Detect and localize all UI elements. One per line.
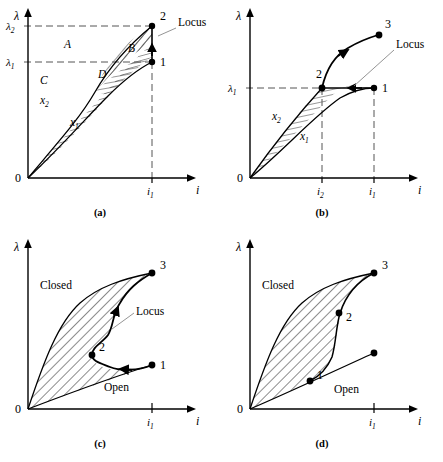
curve-x1-label: x1 [299, 130, 309, 145]
panel-a-caption: (a) [94, 207, 107, 219]
point-1 [149, 362, 156, 369]
region-d-label: D [97, 68, 107, 80]
locus-label: Locus [396, 38, 425, 50]
locus-label: Locus [178, 16, 207, 28]
panel-c-caption: (c) [94, 438, 106, 450]
y-axis-arrow [24, 239, 32, 248]
locus-leader-line [158, 28, 176, 36]
x-axis-label: i [196, 414, 199, 428]
point-1 [371, 85, 377, 91]
xtick-i2-label: i2 [317, 185, 324, 200]
panel-b-caption: (b) [316, 207, 329, 219]
path-2-to-3 [322, 35, 378, 88]
point-2-label: 2 [346, 310, 352, 324]
x-axis-label: i [418, 183, 421, 197]
region-b-label: B [128, 42, 135, 54]
panel-d-caption: (d) [316, 438, 329, 450]
point-open-end [371, 350, 378, 357]
curve-x2-label: x2 [39, 94, 49, 109]
x-axis-arrow [187, 174, 196, 182]
y-axis-label: λ [13, 240, 19, 254]
origin-label: 0 [15, 402, 21, 416]
point-1-label: 1 [382, 81, 388, 95]
region-open-label: Open [104, 381, 129, 394]
point-2-label: 2 [316, 67, 322, 81]
point-2-label: 2 [160, 9, 166, 23]
point-2 [89, 352, 96, 359]
point-2 [319, 85, 326, 92]
point-3 [371, 270, 378, 277]
x-axis-arrow [409, 405, 418, 413]
y-axis-arrow [24, 8, 32, 17]
region-c-label: C [40, 74, 48, 86]
xtick-i1-label: i1 [147, 185, 154, 200]
point-1-label: 1 [317, 368, 323, 382]
x-axis-label: i [418, 414, 421, 428]
panel-b: λ i 0 λ1 i2 i1 1 2 3 x2 x1 Locus (b) [222, 0, 443, 231]
xtick-i1-label: i1 [369, 185, 376, 200]
region-open-label: Open [334, 383, 359, 396]
point-3-label: 3 [385, 17, 391, 31]
origin-label: 0 [15, 171, 21, 185]
point-3-label: 3 [382, 258, 388, 272]
point-2 [149, 23, 155, 29]
locus-arrow-1 [120, 369, 132, 370]
point-3-label: 3 [160, 258, 166, 272]
region-closed-label: Closed [40, 279, 72, 291]
point-1 [307, 378, 314, 385]
panel-d: λ i 0 i1 1 2 3 Closed Open (d) [222, 231, 443, 462]
y-axis-arrow [246, 8, 254, 17]
point-3 [376, 32, 383, 39]
locus-leader-line [354, 50, 394, 86]
y-axis-label: λ [13, 9, 19, 23]
x-axis-arrow [187, 405, 196, 413]
figure-container: λ i 0 λ2 λ1 i1 2 1 A B C D x2 x1 [0, 0, 443, 462]
point-2 [336, 310, 343, 317]
region-hatch [28, 273, 152, 409]
xtick-i1-label: i1 [147, 416, 154, 431]
xtick-i1-label: i1 [369, 416, 376, 431]
point-3 [149, 270, 156, 277]
point-2-label: 2 [99, 340, 105, 354]
point-1 [149, 59, 155, 65]
y-axis-label: λ [235, 240, 241, 254]
ytick-lambda1: λ1 [5, 56, 15, 71]
y-axis-arrow [246, 239, 254, 248]
x-axis-label: i [196, 183, 199, 197]
locus-label: Locus [136, 305, 165, 317]
x-axis-arrow [409, 174, 418, 182]
region-closed-label: Closed [262, 279, 294, 291]
origin-label: 0 [237, 171, 243, 185]
curve-x2-label: x2 [271, 110, 281, 125]
origin-label: 0 [237, 402, 243, 416]
panel-a: λ i 0 λ2 λ1 i1 2 1 A B C D x2 x1 [0, 0, 221, 231]
ytick-lambda1: λ1 [227, 82, 237, 97]
panel-c: λ i 0 i1 1 2 3 Closed Open Locus (c) [0, 231, 221, 462]
y-axis-label: λ [235, 9, 241, 23]
region-a-label: A [63, 38, 72, 50]
point-1-label: 1 [160, 55, 166, 69]
point-1-label: 1 [160, 358, 166, 372]
